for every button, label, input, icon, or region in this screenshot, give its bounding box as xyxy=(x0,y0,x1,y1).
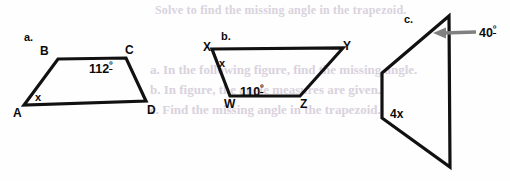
figure-b-vertex-Z: Z xyxy=(300,98,307,110)
figure-a-angle-A-variable: x xyxy=(35,92,41,103)
figure-c-angle-apex-value: 40º xyxy=(479,25,496,40)
figure-c-angle-apex-number: 40 xyxy=(479,26,493,40)
figure-a-angle-C-number: 112 xyxy=(89,62,109,76)
figure-b-angle-W-value: 110º xyxy=(240,84,263,99)
figure-b-vertex-Y: Y xyxy=(343,40,351,52)
figure-b-trapezoid xyxy=(212,48,343,96)
figure-c-quadrilateral xyxy=(382,16,450,167)
figure-a-vertex-B: B xyxy=(40,45,49,57)
angle-pointer-arrow-icon xyxy=(433,28,476,39)
figure-a-angle-C-degree-symbol: º xyxy=(109,60,112,70)
figure-a-vertex-A: A xyxy=(13,107,22,119)
figure-b-item-label: b. xyxy=(221,31,231,42)
figure-b-vertex-X: X xyxy=(203,41,211,53)
figure-a-trapezoid xyxy=(24,58,146,105)
figure-c-angle-apex-degree-symbol: º xyxy=(493,24,496,34)
figure-b-vertex-W: W xyxy=(224,98,235,110)
figure-c-item-label: c. xyxy=(404,14,413,25)
worksheet-page: Solve to find the missing angle in the t… xyxy=(0,0,510,181)
figure-a-vertex-D: D xyxy=(147,104,156,116)
figure-a-vertex-C: C xyxy=(125,44,134,56)
figure-b-angle-W-degree-symbol: º xyxy=(260,83,263,93)
figure-b-angle-W-number: 110 xyxy=(240,85,260,99)
figure-c-angle-left-variable: 4x xyxy=(390,108,403,120)
figure-a-angle-C-value: 112º xyxy=(89,61,112,76)
figure-b-angle-X-variable: x xyxy=(219,58,225,69)
figure-a-item-label: a. xyxy=(24,32,33,43)
